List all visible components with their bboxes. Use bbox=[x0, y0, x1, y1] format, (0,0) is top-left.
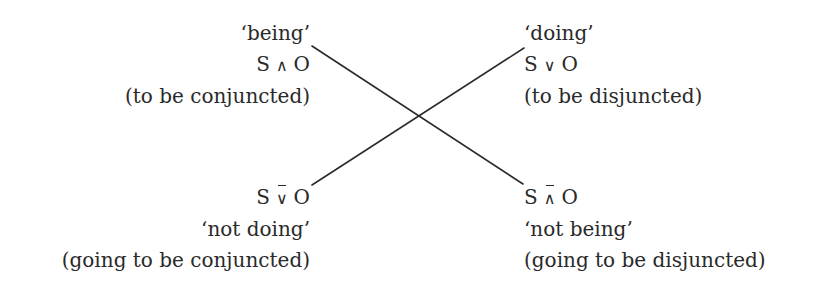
node-formula: S∨O bbox=[62, 182, 310, 214]
node-formula: S∨O bbox=[524, 49, 702, 81]
formula-subject: S bbox=[256, 185, 270, 209]
formula-object: O bbox=[294, 185, 310, 209]
formula-subject: S bbox=[524, 185, 538, 209]
formula-subject: S bbox=[524, 52, 538, 76]
edge-being-to-not-being bbox=[312, 46, 523, 184]
node-formula: S∧O bbox=[125, 49, 310, 81]
formula-object: O bbox=[561, 185, 577, 209]
disjunction-operator: ∨ bbox=[538, 50, 562, 81]
node-doing: ‘doing’ S∨O (to be disjuncted) bbox=[524, 18, 702, 112]
node-gloss: (going to be disjuncted) bbox=[524, 245, 766, 276]
negated-disjunction-operator: ∨ bbox=[270, 183, 294, 214]
node-label: ‘not doing’ bbox=[62, 214, 310, 245]
node-label: ‘not being’ bbox=[524, 214, 766, 245]
node-gloss: (to be disjuncted) bbox=[524, 81, 702, 112]
node-label: ‘being’ bbox=[125, 18, 310, 49]
node-being: ‘being’ S∧O (to be conjuncted) bbox=[125, 18, 310, 112]
node-label: ‘doing’ bbox=[524, 18, 702, 49]
node-not-doing: S∨O ‘not doing’ (going to be conjuncted) bbox=[62, 182, 310, 276]
node-not-being: S∧O ‘not being’ (going to be disjuncted) bbox=[524, 182, 766, 276]
formula-object: O bbox=[561, 52, 577, 76]
semiotic-square-diagram: ‘being’ S∧O (to be conjuncted) ‘doing’ S… bbox=[0, 0, 819, 291]
negated-conjunction-operator: ∧ bbox=[538, 183, 562, 214]
node-formula: S∧O bbox=[524, 182, 766, 214]
node-gloss: (to be conjuncted) bbox=[125, 81, 310, 112]
conjunction-operator: ∧ bbox=[270, 50, 294, 81]
formula-object: O bbox=[294, 52, 310, 76]
formula-subject: S bbox=[256, 52, 270, 76]
node-gloss: (going to be conjuncted) bbox=[62, 245, 310, 276]
